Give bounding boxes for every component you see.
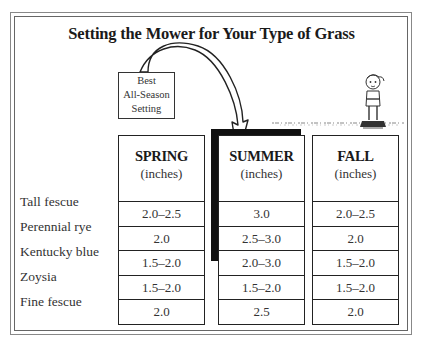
column-summer: SUMMER (inches) 3.0 2.5–3.0 2.0–3.0 1.5–… <box>218 135 305 325</box>
table-cell: 1.5–2.0 <box>119 276 204 301</box>
table-cell: 1.5–2.0 <box>313 251 398 276</box>
table-cell: 2.5–3.0 <box>219 227 304 252</box>
row-label: Tall fescue <box>20 189 99 214</box>
best-all-season-callout: Best All-Season Setting <box>118 72 175 119</box>
table-cell: 1.5–2.0 <box>313 276 398 301</box>
row-label: Perennial rye <box>20 214 99 239</box>
season-label: SUMMER <box>219 148 304 165</box>
row-label: Zoysia <box>20 264 99 289</box>
column-spring: SPRING (inches) 2.0–2.5 2.0 1.5–2.0 1.5–… <box>118 135 205 325</box>
season-label: FALL <box>313 148 398 165</box>
table-cell: 1.5–2.0 <box>219 276 304 301</box>
table-cell: 2.5 <box>219 300 304 324</box>
callout-line: Setting <box>119 102 174 116</box>
callout-line: All-Season <box>119 88 174 102</box>
unit-label: (inches) <box>119 166 204 182</box>
column-fall: FALL (inches) 2.0–2.5 2.0 1.5–2.0 1.5–2.… <box>312 135 399 325</box>
column-header: FALL (inches) <box>313 148 398 202</box>
row-label: Fine fescue <box>20 289 99 314</box>
table-cell: 2.0–2.5 <box>119 202 204 227</box>
unit-label: (inches) <box>313 166 398 182</box>
unit-label: (inches) <box>219 166 304 182</box>
table-cell: 3.0 <box>219 202 304 227</box>
table-cell: 2.0–3.0 <box>219 251 304 276</box>
column-header: SUMMER (inches) <box>219 148 304 202</box>
grass-type-labels: Tall fescue Perennial rye Kentucky blue … <box>20 189 99 314</box>
callout-line: Best <box>119 74 174 88</box>
table-cell: 2.0 <box>119 300 204 324</box>
row-label: Kentucky blue <box>20 239 99 264</box>
table-cell: 2.0 <box>313 227 398 252</box>
season-label: SPRING <box>119 148 204 165</box>
table-cell: 2.0–2.5 <box>313 202 398 227</box>
column-header: SPRING (inches) <box>119 148 204 202</box>
table-cell: 2.0 <box>119 227 204 252</box>
table-cell: 1.5–2.0 <box>119 251 204 276</box>
table-cell: 2.0 <box>313 300 398 324</box>
